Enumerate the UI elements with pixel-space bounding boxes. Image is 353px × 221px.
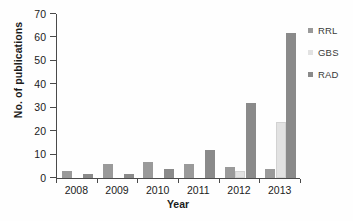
bar-rad-2013 [286,33,296,178]
y-tick: 40 [50,83,56,84]
y-tick: 60 [50,36,56,37]
bar-rad-2009 [124,174,134,178]
bar-group: 2010 [143,14,172,178]
bar-group: 2008 [62,14,91,178]
legend-label: RAD [318,69,339,80]
x-tick-label: 2011 [187,184,210,196]
y-tick-label: 50 [34,54,46,66]
legend-swatch-icon [308,72,313,77]
y-tick-label: 20 [34,125,46,137]
legend-item-rad[interactable]: RAD [308,66,339,82]
y-tick: 70 [50,13,56,14]
legend-swatch-icon [308,50,313,55]
y-axis-line [56,14,57,179]
y-tick-label: 60 [34,31,46,43]
bar-rad-2008 [83,174,93,178]
legend-label: GBS [318,47,339,58]
y-tick: 50 [50,60,56,61]
bar-group: 2013 [265,14,294,178]
y-tick-label: 30 [34,101,46,113]
legend-swatch-icon [308,28,313,33]
bar-rrl-2010 [143,162,153,178]
y-tick: 30 [50,107,56,108]
bar-gbs-2013 [276,122,286,178]
y-tick-label: 40 [34,78,46,90]
y-tick-label: 70 [34,8,46,20]
x-tick [219,179,220,183]
bar-rad-2010 [164,169,174,178]
y-tick-label: 0 [40,172,46,184]
x-tick [137,179,138,183]
x-tick-label: 2008 [65,184,88,196]
legend-item-rrl[interactable]: RRL [308,22,339,38]
y-tick: 10 [50,154,56,155]
bar-chart-figure: No. of publications 010203040506070 2008… [0,0,353,221]
x-tick-label: 2009 [105,184,128,196]
legend-item-gbs[interactable]: GBS [308,44,339,60]
y-tick-label: 10 [34,148,46,160]
bar-rrl-2013 [265,169,275,178]
y-tick: 20 [50,130,56,131]
x-tick [178,179,179,183]
chart-legend: RRLGBSRAD [308,22,339,88]
bar-group: 2011 [184,14,213,178]
plot-area: 010203040506070 200820092010201120122013 [56,14,300,179]
bar-rad-2011 [205,150,215,178]
bar-group: 2009 [103,14,132,178]
bar-rrl-2011 [184,164,194,178]
y-tick: 0 [50,177,56,178]
x-tick [300,179,301,183]
x-tick [259,179,260,183]
x-axis-title: Year [56,198,300,210]
x-tick [56,179,57,183]
bar-rrl-2012 [225,167,235,178]
x-tick-label: 2013 [268,184,291,196]
x-tick-label: 2012 [227,184,250,196]
bar-group: 2012 [225,14,254,178]
bar-rrl-2009 [103,164,113,178]
x-tick-label: 2010 [146,184,169,196]
y-axis-title: No. of publications [12,0,24,145]
bar-rrl-2008 [62,171,72,178]
bar-rad-2012 [246,103,256,178]
x-tick [97,179,98,183]
bar-gbs-2012 [235,171,245,178]
legend-label: RRL [318,25,338,36]
